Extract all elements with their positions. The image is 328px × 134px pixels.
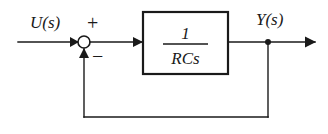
transfer-function-numerator: 1: [181, 24, 190, 43]
block-diagram: 1 RCs U(s) Y(s) + −: [0, 0, 328, 134]
transfer-function-denominator: RCs: [170, 49, 200, 68]
feedback-arrow-icon: [79, 48, 89, 58]
block-input-arrow-icon: [133, 37, 143, 47]
block-diagram-canvas: 1 RCs U(s) Y(s) + −: [0, 0, 328, 134]
summing-junction: [78, 36, 90, 48]
output-arrow-icon: [305, 37, 316, 48]
negative-sign-label: −: [92, 45, 103, 67]
output-signal-label: Y(s): [256, 10, 284, 29]
input-signal-label: U(s): [30, 13, 61, 32]
positive-sign-label: +: [87, 12, 98, 34]
